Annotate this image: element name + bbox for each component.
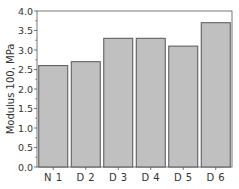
bar-d5 bbox=[169, 46, 198, 167]
bar-d2 bbox=[71, 62, 100, 167]
y-tick-label: 2.5 bbox=[18, 64, 33, 75]
x-tick-label: D 5 bbox=[174, 172, 193, 183]
x-axis: N 1D 2D 3D 4D 5D 6 bbox=[44, 167, 225, 183]
x-tick-label: D 3 bbox=[109, 172, 128, 183]
bar-chart: 0.00.51.01.52.02.53.03.54.0 N 1D 2D 3D 4… bbox=[0, 0, 239, 189]
bar-d3 bbox=[104, 38, 133, 167]
y-tick-label: 4.0 bbox=[18, 6, 33, 17]
bars bbox=[39, 23, 231, 167]
bar-d4 bbox=[136, 38, 165, 167]
y-tick-label: 2.0 bbox=[18, 84, 33, 95]
y-tick-label: 1.0 bbox=[18, 123, 33, 134]
y-tick-label: 0.0 bbox=[18, 162, 33, 173]
y-axis: 0.00.51.01.52.02.53.03.54.0 bbox=[18, 6, 37, 173]
bar-n1 bbox=[39, 66, 68, 167]
x-tick-label: D 2 bbox=[76, 172, 95, 183]
bar-d6 bbox=[201, 23, 230, 167]
x-tick-label: D 6 bbox=[206, 172, 225, 183]
y-tick-label: 3.0 bbox=[18, 45, 33, 56]
x-tick-label: N 1 bbox=[44, 172, 63, 183]
y-tick-label: 3.5 bbox=[18, 25, 33, 36]
y-tick-label: 1.5 bbox=[18, 103, 33, 114]
y-tick-label: 0.5 bbox=[18, 142, 33, 153]
y-axis-title: Modulus 100, MPa bbox=[5, 44, 16, 135]
x-tick-label: D 4 bbox=[141, 172, 160, 183]
